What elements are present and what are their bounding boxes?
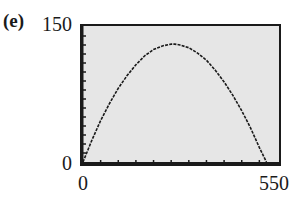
plot-area <box>0 0 295 201</box>
plot-frame <box>81 25 280 165</box>
